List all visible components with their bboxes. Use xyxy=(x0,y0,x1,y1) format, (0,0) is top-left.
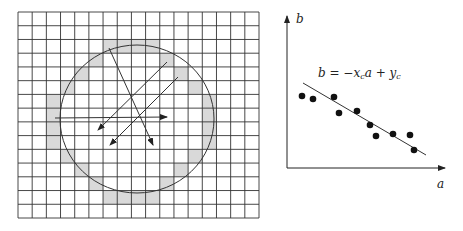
parameter-space-plot xyxy=(287,16,445,168)
data-point xyxy=(390,131,397,138)
shaded-cell xyxy=(202,122,216,136)
shaded-cell xyxy=(188,81,202,95)
eq-y-sub: c xyxy=(396,72,400,81)
shaded-cell xyxy=(46,122,60,136)
shaded-cell xyxy=(131,39,145,53)
eq-equals-minus: = − xyxy=(326,66,354,80)
eq-plus: + xyxy=(372,66,390,80)
eq-lhs: b xyxy=(318,66,326,80)
data-point xyxy=(336,110,343,117)
data-point xyxy=(367,122,374,129)
shaded-cell xyxy=(103,191,117,205)
horizontal-arrow xyxy=(55,117,167,118)
shaded-cell xyxy=(46,108,60,122)
shaded-cell xyxy=(174,163,188,177)
data-point xyxy=(411,147,418,154)
figure-canvas xyxy=(0,0,463,231)
data-point xyxy=(354,108,361,115)
shaded-cell xyxy=(61,81,75,95)
eq-a: a xyxy=(365,66,372,80)
shaded-cell xyxy=(46,94,60,108)
a-axis-label: a xyxy=(437,177,444,191)
shaded-cell xyxy=(202,136,216,150)
shaded-cell xyxy=(160,177,174,191)
data-points xyxy=(299,93,418,154)
data-point xyxy=(373,133,380,140)
hough-transform-figure: b a b = −xca + yc xyxy=(0,0,463,231)
data-point xyxy=(299,93,306,100)
data-point xyxy=(331,94,338,101)
data-point xyxy=(407,132,414,139)
pixel-grid xyxy=(18,12,259,218)
shaded-cell xyxy=(75,67,89,81)
shaded-cell xyxy=(202,94,216,108)
diagonal-arrow-lower xyxy=(110,77,178,145)
line-equation: b = −xca + yc xyxy=(318,66,401,81)
diagonal-arrow-upper xyxy=(98,62,167,130)
shaded-cell xyxy=(160,53,174,67)
shaded-cell xyxy=(46,136,60,150)
fit-line xyxy=(303,83,426,155)
b-axis-label: b xyxy=(296,12,304,26)
data-point xyxy=(310,96,317,103)
